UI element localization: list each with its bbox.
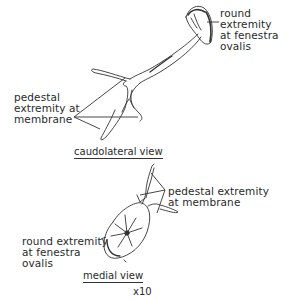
label-pedestal-extremity-top: pedestal extremity at membrane	[14, 92, 80, 125]
label-pedestal-extremity-bottom: pedestal extremity at membrane	[168, 186, 269, 208]
caudolateral-bone	[92, 6, 213, 140]
label-round-extremity-top: round extremity at fenestra ovalis	[220, 8, 279, 52]
label-round-extremity-bottom: round extremity at fenestra ovalis	[22, 236, 108, 269]
caption-medial-view: medial view	[83, 270, 143, 283]
scale-label: x10	[133, 286, 152, 297]
caudolateral-leader-lines	[74, 22, 219, 129]
caption-caudolateral-view: caudolateral view	[74, 146, 163, 159]
medial-bone	[104, 164, 178, 262]
